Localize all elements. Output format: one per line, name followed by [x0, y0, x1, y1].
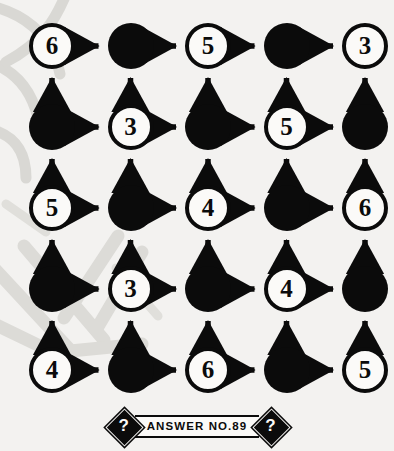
puzzle-page: 6533554634465 ? ANSWER NO.89 ? — [0, 0, 394, 451]
grid-node-value: 5 — [202, 33, 215, 58]
answer-banner-bar: ANSWER NO.89 — [135, 415, 260, 438]
grid-node-filled[interactable] — [264, 185, 310, 231]
grid-node-open[interactable]: 4 — [29, 347, 75, 393]
grid-node-value: 5 — [359, 357, 372, 382]
grid-node-open[interactable]: 6 — [185, 347, 231, 393]
grid-node-value: 4 — [46, 357, 59, 382]
grid-node-filled[interactable] — [108, 185, 154, 231]
grid-node-open[interactable]: 5 — [185, 23, 231, 69]
grid-node-open[interactable]: 3 — [108, 104, 154, 150]
grid-node-open[interactable]: 4 — [185, 185, 231, 231]
grid-node-filled[interactable] — [108, 347, 154, 393]
answer-banner: ? ANSWER NO.89 ? — [0, 405, 394, 447]
grid-node-value: 4 — [280, 276, 293, 301]
answer-banner-label: ANSWER NO.89 — [147, 420, 248, 432]
grid-node-value: 3 — [359, 33, 372, 58]
grid-node-filled[interactable] — [185, 266, 231, 312]
grid-node-open[interactable]: 5 — [29, 185, 75, 231]
grid-node-open[interactable]: 3 — [342, 23, 388, 69]
grid-node-value: 4 — [202, 195, 215, 220]
grid-node-value: 5 — [46, 195, 59, 220]
grid-node-filled[interactable] — [264, 23, 310, 69]
grid-node-filled[interactable] — [342, 104, 388, 150]
grid-node-filled[interactable] — [185, 104, 231, 150]
question-mark-left-icon: ? — [106, 408, 142, 444]
question-mark-right-icon: ? — [252, 408, 288, 444]
grid-node-open[interactable]: 3 — [108, 266, 154, 312]
grid-node-value: 3 — [124, 114, 137, 139]
grid-node-value: 6 — [46, 33, 59, 58]
grid-node-value: 6 — [202, 357, 215, 382]
grid-node-open[interactable]: 6 — [29, 23, 75, 69]
grid-node-value: 5 — [280, 114, 293, 139]
question-mark-right-glyph: ? — [265, 417, 275, 434]
grid-node-filled[interactable] — [108, 23, 154, 69]
grid-node-filled[interactable] — [342, 266, 388, 312]
question-mark-left-glyph: ? — [118, 417, 128, 434]
grid-node-filled[interactable] — [29, 104, 75, 150]
grid-node-value: 6 — [359, 195, 372, 220]
grid-node-filled[interactable] — [29, 266, 75, 312]
grid-node-open[interactable]: 6 — [342, 185, 388, 231]
grid-node-open[interactable]: 5 — [342, 347, 388, 393]
grid-node-value: 3 — [124, 276, 137, 301]
grid-node-open[interactable]: 4 — [264, 266, 310, 312]
grid-node-filled[interactable] — [264, 347, 310, 393]
grid-node-open[interactable]: 5 — [264, 104, 310, 150]
